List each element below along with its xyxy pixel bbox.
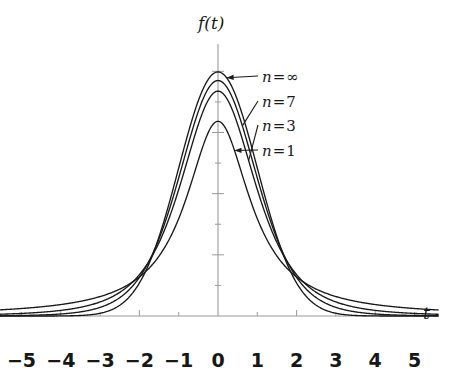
x-axis-label: t bbox=[423, 303, 430, 323]
plot-canvas bbox=[0, 0, 455, 386]
x-tick-label: 5 bbox=[408, 348, 421, 372]
series-annotation-value: 7 bbox=[286, 93, 296, 111]
series-annotation-value: 1 bbox=[286, 142, 296, 160]
series-annotation-equals: = bbox=[272, 93, 287, 111]
y-axis-label: f(t) bbox=[198, 13, 224, 33]
series-annotation-equals: = bbox=[272, 142, 287, 160]
t-distribution-figure: f(t) t n=∞ n=7 n=3 n=1 −5−4−3−2−1012345 bbox=[0, 0, 455, 386]
density-curve bbox=[0, 81, 438, 316]
x-tick-label: 0 bbox=[211, 348, 224, 372]
x-tick-label: −3 bbox=[86, 348, 115, 372]
annotation-leader-line bbox=[242, 101, 258, 126]
annotation-leaders-group bbox=[227, 75, 258, 161]
density-curve bbox=[0, 91, 438, 314]
series-annotation-n-7: n=7 bbox=[262, 93, 296, 111]
series-annotation-variable: n bbox=[262, 117, 272, 135]
x-tick-label: −1 bbox=[164, 348, 193, 372]
series-annotation-variable: n bbox=[262, 93, 272, 111]
x-tick-label: 4 bbox=[369, 348, 382, 372]
series-annotation-equals: = bbox=[272, 68, 287, 86]
x-tick-label: −2 bbox=[125, 348, 154, 372]
series-annotation-value: ∞ bbox=[286, 68, 299, 86]
series-annotation-n-infinity: n=∞ bbox=[262, 68, 299, 86]
x-axis-tick-labels: −5−4−3−2−1012345 bbox=[0, 348, 455, 382]
series-annotation-variable: n bbox=[262, 68, 272, 86]
x-tick-label: −5 bbox=[7, 348, 36, 372]
series-annotation-n-3: n=3 bbox=[262, 117, 296, 135]
axes-group bbox=[0, 44, 428, 316]
series-annotation-equals: = bbox=[272, 117, 287, 135]
series-annotation-value: 3 bbox=[286, 117, 296, 135]
x-tick-label: 2 bbox=[290, 348, 303, 372]
series-annotation-variable: n bbox=[262, 142, 272, 160]
x-tick-label: −4 bbox=[46, 348, 75, 372]
series-annotation-n-1: n=1 bbox=[262, 142, 296, 160]
density-curve bbox=[0, 121, 438, 310]
x-tick-label: 3 bbox=[329, 348, 342, 372]
x-tick-label: 1 bbox=[251, 348, 264, 372]
